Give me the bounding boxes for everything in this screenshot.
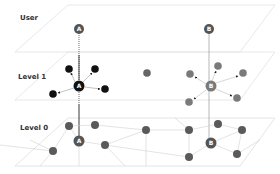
- node[interactable]: [185, 126, 193, 134]
- node[interactable]: [233, 94, 241, 102]
- node[interactable]: [214, 120, 222, 128]
- plane-level0: [15, 118, 275, 166]
- level-label-level1: Level 1: [18, 73, 46, 81]
- node-level1-b[interactable]: B: [206, 81, 217, 92]
- node[interactable]: [185, 153, 193, 161]
- node-letter: B: [209, 139, 214, 146]
- node[interactable]: [233, 150, 241, 158]
- node-user-a[interactable]: A: [74, 24, 84, 34]
- plane-user: [15, 5, 275, 52]
- node[interactable]: [239, 69, 247, 77]
- node[interactable]: [214, 62, 222, 70]
- node-level0-b[interactable]: B: [206, 138, 217, 149]
- node[interactable]: [238, 126, 246, 134]
- node-level1-middle[interactable]: [143, 69, 151, 77]
- node[interactable]: [65, 122, 73, 130]
- node-user-b[interactable]: B: [204, 24, 214, 34]
- node-level1-a[interactable]: A: [74, 81, 85, 92]
- layered-graph-diagram: A B A B A: [0, 0, 280, 174]
- node[interactable]: [49, 90, 57, 98]
- level-label-user: User: [20, 14, 38, 22]
- node[interactable]: [49, 147, 57, 155]
- node[interactable]: [185, 98, 193, 106]
- node[interactable]: [142, 126, 150, 134]
- node[interactable]: [65, 65, 73, 73]
- node[interactable]: [186, 70, 194, 78]
- node[interactable]: [101, 141, 109, 149]
- node-level0-a[interactable]: A: [74, 136, 85, 147]
- node-letter: B: [209, 82, 214, 89]
- node[interactable]: [91, 121, 99, 129]
- node-letter: A: [77, 25, 82, 32]
- node[interactable]: [101, 85, 109, 93]
- node[interactable]: [91, 65, 99, 73]
- node-letter: A: [77, 82, 82, 89]
- level-label-level0: Level 0: [20, 124, 48, 132]
- node-letter: A: [77, 137, 82, 144]
- node-letter: B: [207, 25, 212, 32]
